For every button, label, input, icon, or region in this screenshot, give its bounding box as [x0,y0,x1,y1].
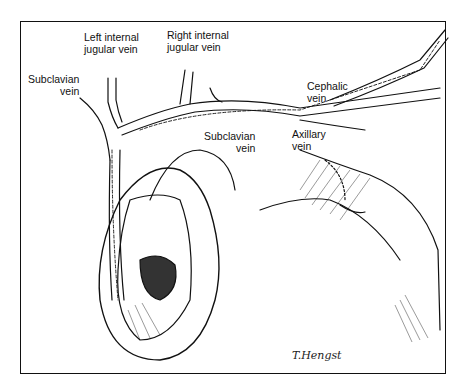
label-subclavian-vein-right: Subclavian vein [204,131,255,154]
label-left-internal-jugular-vein: Left internal jugular vein [84,32,139,55]
label-right-internal-jugular-vein: Right internal jugular vein [167,30,229,53]
vein-anatomy-drawing [0,0,465,389]
label-subclavian-vein-left: Subclavian vein [28,74,79,97]
label-axillary-vein: Axillary vein [292,129,326,152]
left-subclavian-vein-icon [80,98,110,160]
label-cephalic-vein: Cephalic vein [307,81,348,104]
artist-signature: T.Hengst [292,349,342,362]
